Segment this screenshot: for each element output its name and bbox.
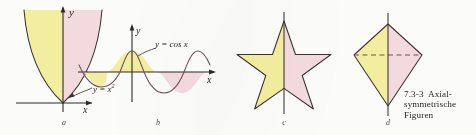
panel-c-star	[228, 6, 340, 116]
axis-label-x-b: x	[206, 74, 212, 85]
caption-line-1: 7.3-3 Axial-	[404, 89, 476, 99]
sublabel-b: b	[148, 118, 168, 127]
panel-b-cosine: y x	[76, 10, 224, 114]
sublabel-c: c	[274, 118, 294, 127]
axis-label-y-b: y	[135, 25, 141, 36]
axis-label-y-a: y	[68, 6, 74, 18]
sublabel-d: d	[378, 118, 398, 127]
sublabel-a: a	[54, 118, 74, 127]
caption-line-2: symmetrische	[404, 99, 476, 109]
figure-caption: 7.3-3 Axial- symmetrische Figuren	[404, 89, 476, 120]
cosine-area-right-pink	[157, 72, 207, 93]
figure-plate: y x y = x2 y x y = cos x	[0, 0, 476, 135]
caption-line-3: Figuren	[404, 110, 476, 120]
curve-label-b: y = cos x	[155, 39, 188, 49]
